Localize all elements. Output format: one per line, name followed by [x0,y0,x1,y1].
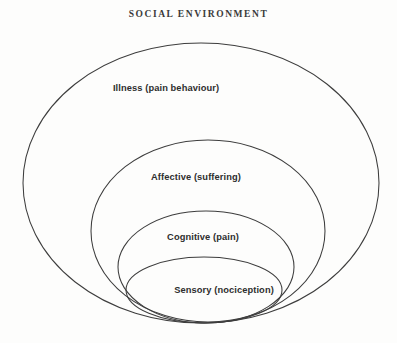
ring-label-cognitive: Cognitive (pain) [167,232,239,242]
ring-label-sensory: Sensory (nociception) [174,285,274,295]
ring-label-illness: Illness (pain behaviour) [113,83,219,93]
ellipse-cognitive [118,211,294,323]
diagram-canvas: SOCIAL ENVIRONMENT Illness (pain behavio… [0,0,397,343]
ring-label-affective: Affective (suffering) [151,172,241,182]
